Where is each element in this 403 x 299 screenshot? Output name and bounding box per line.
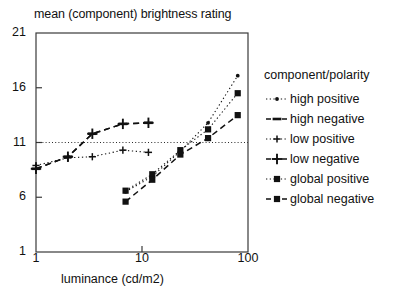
legend-label-high-negative: high negative [290, 110, 364, 128]
legend-marker-low-positive-icon [264, 130, 290, 148]
legend-marker-high-negative-icon [264, 110, 290, 128]
series-global-negative-marker [149, 177, 155, 183]
legend-title: component/polarity [264, 68, 400, 82]
series-global-positive-marker [149, 171, 155, 177]
series-line-high-positive [126, 76, 238, 192]
legend-label-low-positive: low positive [290, 130, 355, 148]
series-global-negative-marker [205, 135, 211, 141]
series-global-positive-marker [235, 90, 241, 96]
legend-label-high-positive: high positive [290, 90, 360, 108]
y-tick-label-11: 11 [2, 135, 26, 149]
chart-figure: mean (component) brightness rating lumin… [0, 0, 403, 299]
series-global-negative-marker [235, 112, 241, 118]
series-global-positive-marker [122, 188, 128, 194]
series-global-negative-marker [122, 199, 128, 205]
legend-item-global-positive[interactable]: global positive [264, 169, 400, 189]
legend-label-global-positive: global positive [290, 170, 369, 188]
series-line-global-positive [126, 93, 238, 190]
legend-marker-high-positive-icon [264, 90, 290, 108]
series-high-positive-marker [236, 74, 240, 78]
y-tick-label-16: 16 [2, 80, 26, 94]
x-tick-label-100: 100 [231, 251, 265, 265]
series-global-negative-marker [177, 151, 183, 157]
x-axis-label: luminance (cd/m2) [61, 272, 164, 286]
legend-entries: high positivehigh negativelow positivelo… [264, 89, 400, 209]
legend-marker-global-negative-icon [264, 190, 290, 208]
legend-item-low-positive[interactable]: low positive [264, 129, 400, 149]
series-global-positive-marker [205, 126, 211, 132]
legend-label-low-negative: low negative [290, 150, 360, 168]
x-tick-label-10: 10 [125, 251, 159, 265]
legend-item-high-positive[interactable]: high positive [264, 89, 400, 109]
legend-marker-low-negative-icon [264, 150, 290, 168]
series-high-positive-marker [206, 121, 210, 125]
y-tick-label-21: 21 [2, 25, 26, 39]
legend-item-low-negative[interactable]: low negative [264, 149, 400, 169]
legend-item-high-negative[interactable]: high negative [264, 109, 400, 129]
legend-item-global-negative[interactable]: global negative [264, 189, 400, 209]
y-tick-label-6: 6 [2, 189, 26, 203]
series-line-global-negative [126, 115, 238, 202]
legend-label-global-negative: global negative [290, 190, 374, 208]
x-tick-label-1: 1 [19, 251, 53, 265]
legend-marker-global-positive-icon [264, 170, 290, 188]
legend: component/polarity high positivehigh neg… [264, 68, 400, 209]
